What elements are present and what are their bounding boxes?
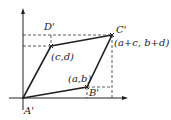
parallelogram-diagram: A' B' C' D' (a,b) (c,d) (a+c, b+d) — [0, 0, 171, 120]
label-point-cd: (c,d) — [51, 51, 74, 62]
label-point-ab: (a,b) — [68, 73, 91, 84]
label-b: B' — [88, 87, 99, 98]
label-c: C' — [116, 24, 126, 35]
label-point-sum: (a+c, b+d) — [114, 37, 169, 48]
y-axis-arrow-icon — [21, 8, 25, 14]
label-a: A' — [23, 105, 34, 116]
x-axis-arrow-icon — [122, 96, 128, 100]
label-d: D' — [43, 21, 55, 32]
